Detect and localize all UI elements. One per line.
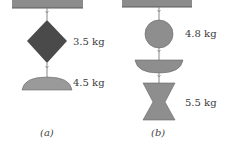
diamond-mass	[27, 20, 67, 63]
caption-a: (a)	[40, 128, 54, 138]
bowl-mass	[135, 60, 183, 73]
diagram-canvas	[0, 0, 225, 145]
mass-label-circle: 4.8 kg	[185, 29, 217, 39]
hourglass-mass	[143, 83, 175, 120]
panel-b	[122, 0, 192, 120]
circle-mass	[145, 20, 173, 48]
ceiling-b	[122, 0, 192, 7]
caption-b: (b)	[151, 128, 165, 138]
dome-mass	[22, 77, 72, 90]
ceiling-a	[12, 0, 83, 8]
mass-label-dome: 4.5 kg	[73, 78, 105, 88]
mass-label-diamond: 3.5 kg	[73, 37, 105, 47]
mass-label-hourglass: 5.5 kg	[185, 98, 217, 108]
